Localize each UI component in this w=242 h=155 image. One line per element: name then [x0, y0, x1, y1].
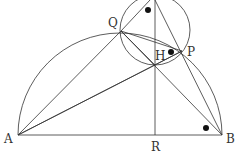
segment-QT: [121, 0, 150, 31]
angle-mark-top: [145, 7, 151, 13]
segment-QH: [121, 31, 155, 65]
label-A: A: [3, 132, 13, 146]
segment-QP: [121, 31, 182, 51]
angle-mark-B: [203, 125, 209, 131]
label-H: H: [155, 49, 165, 63]
label-R: R: [151, 140, 161, 154]
geometry-diagram: A B R Q P H: [0, 0, 242, 155]
label-B: B: [226, 132, 235, 146]
label-Q: Q: [108, 16, 118, 30]
label-P: P: [187, 45, 195, 59]
angle-mark-HP: [168, 49, 174, 55]
